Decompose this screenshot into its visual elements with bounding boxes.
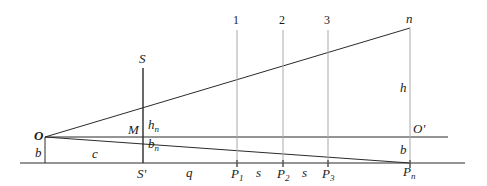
- segment-label-s2: s: [302, 165, 307, 180]
- sight-line-O-Pn: [45, 137, 410, 163]
- segment-label-q: q: [186, 165, 193, 180]
- marker-label-2: 2: [279, 13, 285, 27]
- geometry-diagram: 1 2 3 n O S M S' O' P1 P2 P3 Pn b c q s …: [0, 0, 487, 186]
- segment-label-h-n: hn: [148, 117, 160, 134]
- marker-label-n: n: [406, 11, 413, 26]
- point-label-M: M: [127, 122, 140, 137]
- marker-label-1: 1: [233, 13, 239, 27]
- segment-label-c: c: [92, 146, 98, 161]
- point-label-P1: P1: [230, 166, 243, 183]
- point-label-Pn: Pn: [402, 164, 416, 181]
- point-label-O: O: [34, 128, 44, 143]
- segment-label-b-n: bn: [148, 136, 160, 153]
- marker-label-3: 3: [324, 13, 330, 27]
- point-label-S: S: [139, 51, 146, 66]
- sight-line-O-n: [45, 28, 410, 137]
- point-label-O-prime: O': [413, 121, 425, 136]
- segment-label-b-left: b: [35, 145, 42, 160]
- segment-label-b-right: b: [400, 142, 407, 157]
- point-label-P3: P3: [321, 166, 335, 183]
- point-label-S-prime: S': [137, 166, 147, 181]
- point-label-P2: P2: [276, 166, 290, 183]
- segment-label-h: h: [400, 80, 407, 95]
- segment-label-s1: s: [256, 165, 261, 180]
